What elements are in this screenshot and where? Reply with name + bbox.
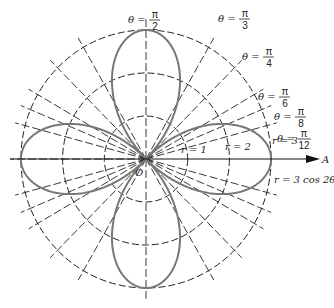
ray-label-pi-over-3: θ =π3 — [218, 8, 250, 31]
svg-text:12: 12 — [298, 140, 310, 151]
ray-label-pi-over-4: θ =π4 — [242, 46, 274, 69]
grid-ray — [146, 38, 214, 159]
polar-axis-label: A — [321, 154, 329, 165]
grid-ray — [146, 159, 242, 258]
circle-label-r2: r = 2 — [225, 141, 251, 152]
grid-ray — [146, 159, 263, 229]
grid-ray — [50, 60, 146, 159]
svg-text:π: π — [266, 46, 273, 57]
grid-ray — [29, 89, 146, 159]
polar-rose-diagram: A O r = 1 r = 2 r = 3 r = 3 cos 2θ θ =π2… — [0, 0, 334, 308]
grid-ray — [15, 159, 146, 195]
svg-text:4: 4 — [266, 58, 272, 69]
svg-text:θ =: θ = — [242, 51, 260, 62]
svg-text:π: π — [152, 9, 159, 20]
svg-text:θ =: θ = — [258, 91, 276, 102]
svg-text:θ =: θ = — [274, 111, 292, 122]
grid-ray — [29, 159, 146, 229]
ray-labels: θ =π2θ =π3θ =π4θ =π6θ =π8θ =π12 — [128, 8, 311, 151]
ray-label-pi-over-12: θ =π12 — [277, 128, 311, 151]
grid-ray — [15, 123, 146, 159]
ray-label-pi-over-8: θ =π8 — [274, 106, 306, 129]
grid-ray — [146, 159, 214, 280]
grid-ray — [50, 159, 146, 258]
ray-label-pi-over-2: θ =π2 — [128, 9, 160, 32]
arrow-head-icon — [306, 155, 320, 163]
svg-text:3: 3 — [242, 20, 248, 31]
svg-text:π: π — [242, 8, 249, 19]
svg-text:π: π — [282, 86, 289, 97]
grid-ray — [146, 123, 277, 159]
svg-text:θ =: θ = — [218, 13, 236, 24]
svg-text:θ =: θ = — [128, 14, 146, 25]
circle-label-r1: r = 1 — [181, 144, 207, 155]
curve-equation-label: r = 3 cos 2θ — [274, 174, 334, 185]
svg-text:6: 6 — [282, 98, 288, 109]
polar-axis — [10, 155, 320, 163]
svg-text:θ =: θ = — [277, 133, 295, 144]
grid-ray — [146, 159, 277, 195]
grid-ray — [78, 38, 146, 159]
svg-text:π: π — [301, 128, 308, 139]
svg-text:π: π — [298, 106, 305, 117]
origin-label: O — [135, 167, 143, 178]
svg-text:2: 2 — [152, 21, 158, 32]
